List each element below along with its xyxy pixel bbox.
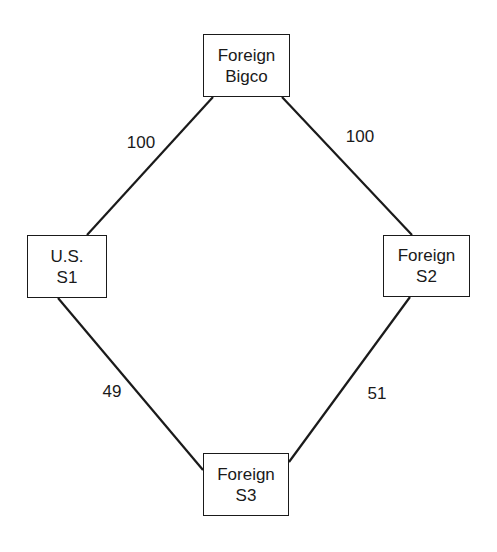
node-foreign-bigco: Foreign Bigco — [203, 34, 290, 97]
edge-s2-s3 — [289, 297, 410, 462]
node-label-line2: S2 — [416, 266, 437, 287]
node-foreign-s3: Foreign S3 — [203, 453, 289, 516]
edge-label-s2-s3: 51 — [368, 384, 387, 404]
edge-bigco-s2 — [282, 97, 412, 235]
node-foreign-s2: Foreign S2 — [383, 235, 470, 297]
ownership-diagram: Foreign Bigco U.S. S1 Foreign S2 Foreign… — [0, 0, 497, 552]
node-label-line1: Foreign — [217, 464, 275, 485]
edge-bigco-s1 — [87, 97, 213, 235]
node-label-line2: S1 — [57, 267, 78, 288]
edge-s1-s3 — [58, 298, 203, 470]
node-us-s1: U.S. S1 — [27, 235, 107, 298]
edge-label-bigco-s1: 100 — [127, 133, 155, 153]
edge-label-s1-s3: 49 — [103, 382, 122, 402]
edge-label-bigco-s2: 100 — [346, 127, 374, 147]
node-label-line1: Foreign — [398, 245, 456, 266]
node-label-line2: S3 — [236, 485, 257, 506]
node-label-line1: U.S. — [50, 246, 83, 267]
node-label-line1: Foreign — [218, 45, 276, 66]
node-label-line2: Bigco — [225, 66, 268, 87]
